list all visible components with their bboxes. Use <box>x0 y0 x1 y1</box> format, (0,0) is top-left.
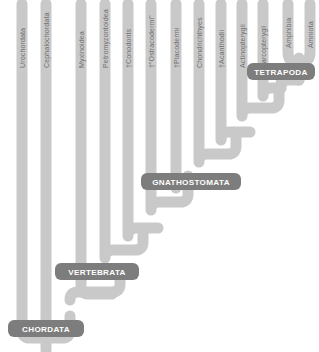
node-pill-chordata-label: CHORDATA <box>22 325 70 334</box>
tip-label-actinopterygii: Actinopterygii <box>239 24 247 68</box>
tip-label-urochordata: Urochordata <box>19 28 27 68</box>
tip-label-conodonts: †Conodonts <box>125 28 133 68</box>
node-pill-gnathostomata: GNATHOSTOMATA <box>141 173 241 190</box>
tip-label-amniota: Amniota <box>307 21 315 48</box>
tip-label-amphibia: Amphibia <box>285 18 293 48</box>
tip-label-chondrichthyes: Chondrichthyes <box>196 17 204 68</box>
tip-label-petromyzontoidea: Petromyzontoidea <box>102 9 110 68</box>
cladogram-diagram: Urochordata Cephalochordata Myxinoidea P… <box>0 0 319 352</box>
branch-tetrapoda-to-sarcopterygii <box>281 80 299 88</box>
tip-label-placodermi: †Placodermi <box>173 27 181 68</box>
node-pill-tetrapoda: TETRAPODA <box>247 63 315 80</box>
cladogram-svg: Urochordata Cephalochordata Myxinoidea P… <box>0 0 319 352</box>
tip-label-cephalochordata: Cephalochordata <box>43 12 51 68</box>
node-pill-gnathostomata-label: GNATHOSTOMATA <box>152 178 230 187</box>
node-pill-vertebrata: VERTEBRATA <box>55 263 139 280</box>
tip-label-group: Urochordata Cephalochordata Myxinoidea P… <box>19 9 315 68</box>
tip-label-myxinoidea: Myxinoidea <box>78 31 86 68</box>
node-pill-vertebrata-label: VERTEBRATA <box>68 268 126 277</box>
tip-label-sarcopterygii: Sarcopterygii <box>260 25 268 68</box>
node-pill-chordata: CHORDATA <box>8 320 84 337</box>
tip-label-ostracodermi: †“Ostracodermi” <box>148 15 156 68</box>
tip-label-acanthodii: †Acanthodii <box>218 30 226 68</box>
node-pill-tetrapoda-label: TETRAPODA <box>254 68 308 77</box>
